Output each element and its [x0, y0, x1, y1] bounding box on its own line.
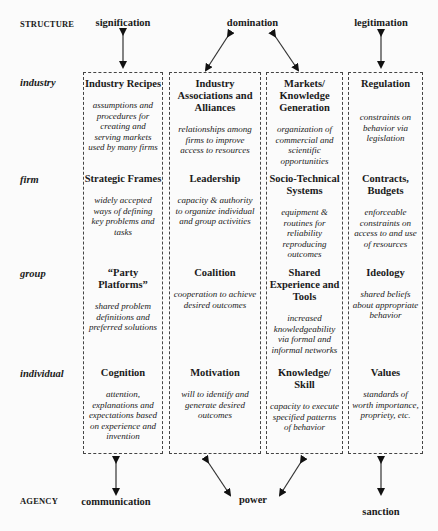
domination-arrow-left [206, 36, 228, 70]
cell-industry-associations: Industry Associations and Alliances rela… [170, 78, 260, 156]
agency-label: AGENCY [20, 496, 58, 506]
cell-description: standards of worth importance, propriety… [349, 389, 422, 421]
power-arrow-right [280, 462, 301, 495]
cell-title: Knowledge/ Skill [267, 367, 342, 391]
cell-description: constraints on behavior via legislation [349, 112, 422, 144]
cell-title: Markets/ Knowledge Generation [267, 78, 342, 114]
column-domination-a: Industry Associations and Alliances rela… [169, 72, 261, 454]
cell-coalition: Coalition cooperation to achieve desired… [170, 267, 260, 310]
column-legitimation: Regulation constraints on behavior via l… [348, 72, 423, 454]
cell-description: cooperation to achieve desired outcomes [170, 289, 260, 310]
cell-markets-knowledge-generation: Markets/ Knowledge Generation organizati… [267, 78, 342, 166]
cell-motivation: Motivation will to identify and generate… [170, 367, 260, 421]
cell-title: Leadership [170, 173, 260, 185]
cell-description: increased knowledgeability via formal an… [267, 313, 342, 355]
level-group: group [20, 268, 46, 279]
cell-socio-technical-systems: Socio-Technical Systems equipment & rout… [267, 173, 342, 260]
level-firm: firm [20, 174, 39, 185]
cell-description: relationships among firms to improve acc… [170, 124, 260, 156]
column-signification: Industry Recipes assumptions and procedu… [83, 72, 163, 454]
domination-arrow-right [275, 36, 298, 70]
cell-ideology: Ideology shared beliefs about appropriat… [349, 267, 422, 321]
cell-description: shared problem definitions and preferred… [84, 301, 162, 333]
cell-title: Regulation [349, 78, 422, 90]
dimension-sanction: sanction [355, 506, 407, 517]
cell-regulation: Regulation constraints on behavior via l… [349, 78, 422, 144]
cell-title: Coalition [170, 267, 260, 279]
cell-cognition: Cognition attention, explanations and ex… [84, 367, 162, 442]
cell-leadership: Leadership capacity & authority to organ… [170, 173, 260, 227]
cell-description: capacity to execute specified patterns o… [267, 401, 342, 433]
cell-knowledge-skill: Knowledge/ Skill capacity to execute spe… [267, 367, 342, 433]
level-industry: industry [20, 77, 56, 88]
cell-title: Cognition [84, 367, 162, 379]
cell-title: “Party Platforms” [84, 267, 162, 291]
structure-label: STRUCTURE [20, 19, 74, 29]
cell-title: Industry Recipes [84, 78, 162, 90]
cell-description: capacity & authority to organize individ… [170, 195, 260, 227]
column-domination-b: Markets/ Knowledge Generation organizati… [266, 72, 343, 454]
cell-title: Ideology [349, 267, 422, 279]
cell-contracts-budgets: Contracts, Budgets enforceable constrain… [349, 173, 422, 249]
dimension-communication: communication [76, 496, 156, 507]
cell-title: Shared Experience and Tools [267, 267, 342, 303]
cell-description: equipment & routines for reliability rep… [267, 207, 342, 260]
cell-description: assumptions and procedures for creating … [84, 100, 162, 153]
cell-title: Strategic Frames [84, 173, 162, 185]
cell-title: Industry Associations and Alliances [170, 78, 260, 114]
cell-shared-experience-tools: Shared Experience and Tools increased kn… [267, 267, 342, 355]
cell-title: Values [349, 367, 422, 379]
cell-party-platforms: “Party Platforms” shared problem definit… [84, 267, 162, 333]
cell-description: will to identify and generate desired ou… [170, 389, 260, 421]
dimension-power: power [228, 494, 278, 505]
level-individual: individual [20, 368, 64, 379]
cell-description: widely accepted ways of defining key pro… [84, 195, 162, 237]
dimension-legitimation: legitimation [350, 17, 412, 28]
dimension-signification: signification [93, 17, 153, 28]
cell-strategic-frames: Strategic Frames widely accepted ways of… [84, 173, 162, 237]
cell-description: organization of commercial and scientifi… [267, 124, 342, 166]
cell-title: Socio-Technical Systems [267, 173, 342, 197]
cell-values: Values standards of worth importance, pr… [349, 367, 422, 421]
cell-description: shared beliefs about appropriate behavio… [349, 289, 422, 321]
cell-industry-recipes: Industry Recipes assumptions and procedu… [84, 78, 162, 153]
dimension-domination: domination [215, 17, 290, 28]
cell-description: attention, explanations and expectations… [84, 389, 162, 442]
power-arrow-left [208, 462, 230, 495]
cell-title: Motivation [170, 367, 260, 379]
cell-description: enforceable constraints on access to and… [349, 207, 422, 249]
cell-title: Contracts, Budgets [349, 173, 422, 197]
